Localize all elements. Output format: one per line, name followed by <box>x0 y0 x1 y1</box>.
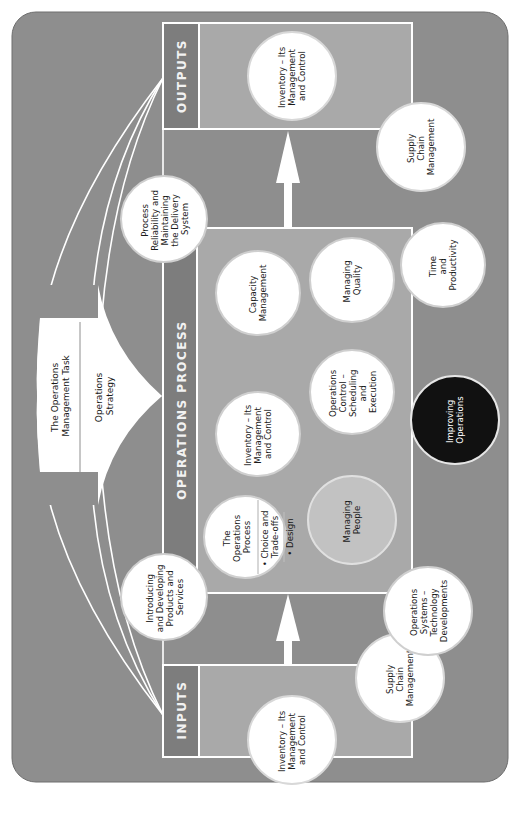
inputs-header: INPUTS <box>175 681 189 740</box>
operations-process-box: OPERATIONS PROCESS The Operations Proces… <box>163 228 412 593</box>
operations-process-header: OPERATIONS PROCESS <box>175 320 189 500</box>
outputs-header: OUTPUTS <box>175 39 189 113</box>
process-inventory-label: Inventory – Its Management and Control <box>243 402 273 466</box>
outputs-box: OUTPUTS Inventory – Its Management and C… <box>163 23 412 129</box>
outputs-inventory-label: Inventory – Its Management and Control <box>277 44 307 108</box>
systems-technology-label: Operations Systems – Technology Developm… <box>409 579 449 642</box>
svg-text:• Choice and Trade-off: • Choice and Trade-offs <box>260 508 280 567</box>
improving-operations-label: Improving Operations <box>445 396 465 444</box>
inputs-inventory-label: Inventory – Its Management and Control <box>277 708 307 772</box>
operations-strategy-label: Operations Strategy <box>94 370 115 422</box>
svg-text:• Design: • Design <box>285 518 295 555</box>
operations-control-label: Operations Control – Scheduling and Exec… <box>328 367 378 417</box>
management-task-title: The Operations Management Task <box>50 354 71 436</box>
operations-management-diagram: The Operations Management Task Operation… <box>0 0 518 817</box>
